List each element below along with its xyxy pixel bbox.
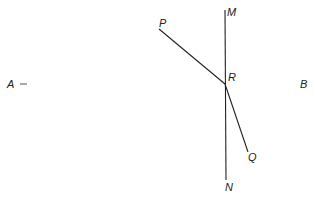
ray-rp [159,29,225,84]
line-mn [225,10,226,180]
label-r: R [228,71,236,83]
ray-rq [225,84,248,152]
label-q: Q [248,151,257,163]
label-a: A [6,78,14,90]
label-b: B [300,78,307,90]
label-p: P [159,17,167,29]
label-n: N [225,181,233,193]
label-m: M [227,6,237,18]
geometry-diagram: A B M N P Q R [0,0,315,197]
